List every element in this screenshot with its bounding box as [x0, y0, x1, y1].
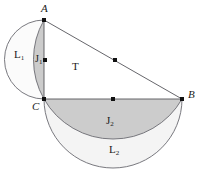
point-midpoint-CB [111, 97, 115, 101]
vertex-label-B: B [188, 88, 195, 100]
region-label-L2-base: L [109, 143, 116, 155]
region-label-L2: L2 [109, 143, 119, 155]
point-C [42, 97, 46, 101]
point-midpoint-AC-arc [43, 58, 47, 62]
region-label-L1-sub: 1 [21, 54, 25, 62]
point-B [180, 97, 184, 101]
point-A [42, 18, 46, 22]
vertex-label-A: A [41, 2, 48, 14]
region-label-J1-sub: 1 [39, 58, 43, 66]
region-label-L1: L1 [14, 48, 24, 60]
region-label-J1: J1 [35, 53, 42, 64]
geometry-figure [0, 0, 203, 183]
region-label-J2: J2 [106, 114, 114, 126]
region-label-J2-sub: 2 [110, 120, 114, 128]
region-label-L2-sub: 2 [116, 149, 120, 157]
region-label-T: T [72, 60, 79, 72]
vertex-label-C: C [32, 100, 39, 112]
region-label-L1-base: L [14, 48, 21, 60]
region-label-T-base: T [72, 60, 79, 72]
point-midpoint-AB [113, 58, 117, 62]
